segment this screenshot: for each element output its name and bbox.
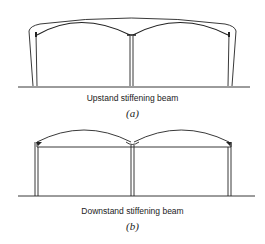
caption-a: Upstand stiffening beam xyxy=(0,93,265,103)
shell-arch-right-a xyxy=(133,23,228,36)
edge-block-left-a xyxy=(35,32,37,37)
edge-block-right-a xyxy=(228,32,230,37)
upstand-beam-outline xyxy=(29,18,236,86)
figure-a-upstand xyxy=(18,18,250,87)
haunch-right-b xyxy=(226,142,231,146)
figure-label-a: (a) xyxy=(0,107,265,119)
figure-label-b: (b) xyxy=(0,220,265,232)
column-left-a xyxy=(36,34,37,86)
shell-arch-left-b xyxy=(37,130,131,142)
shell-arch-left-a xyxy=(37,23,130,36)
valley-gutter-b xyxy=(126,142,139,145)
column-right-a xyxy=(228,34,229,86)
figure-b-downstand xyxy=(18,130,255,196)
caption-b: Downstand stiffening beam xyxy=(0,206,265,216)
shell-arch-right-b xyxy=(134,130,229,142)
